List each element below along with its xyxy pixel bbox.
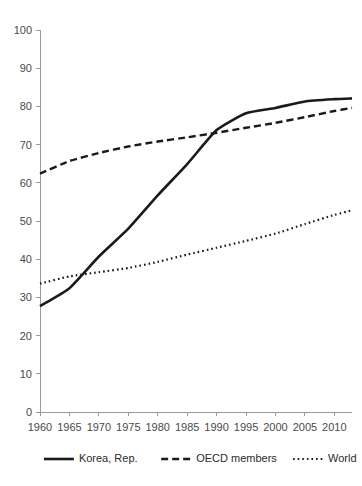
series-line-solid (40, 98, 352, 306)
x-axis-tick-label: 1970 (87, 421, 111, 433)
data-series-group (40, 98, 352, 306)
x-axis-tick-label: 2010 (322, 421, 346, 433)
x-axis-tick-label: 1960 (28, 421, 52, 433)
x-axis-tick-label: 1965 (57, 421, 81, 433)
legend-label: Korea, Rep. (79, 452, 138, 464)
x-axis-tick-group: 1960196519701975198019851990199520002005… (28, 412, 347, 433)
chart-legend: Korea, Rep.OECD membersWorld (44, 452, 357, 464)
y-axis-tick-label: 100 (14, 24, 32, 36)
y-axis-tick-label: 10 (20, 368, 32, 380)
y-axis-tick-label: 90 (20, 62, 32, 74)
legend-label: World (328, 452, 357, 464)
x-axis-tick-label: 1975 (116, 421, 140, 433)
x-axis-tick-label: 1990 (204, 421, 228, 433)
urbanization-line-chart: 0102030405060708090100 19601965197019751… (0, 0, 362, 486)
y-axis-tick-label: 50 (20, 215, 32, 227)
series-line-dotted (40, 210, 352, 283)
y-axis-tick-label: 80 (20, 100, 32, 112)
x-axis-tick-label: 1980 (145, 421, 169, 433)
x-axis-tick-label: 1985 (175, 421, 199, 433)
y-axis-tick-label: 60 (20, 177, 32, 189)
y-axis-tick-label: 30 (20, 291, 32, 303)
y-axis-tick-label: 40 (20, 253, 32, 265)
y-axis-tick-label: 20 (20, 330, 32, 342)
y-axis-tick-label: 0 (26, 406, 32, 418)
legend-label: OECD members (196, 452, 277, 464)
chart-canvas: 0102030405060708090100 19601965197019751… (0, 0, 362, 486)
x-axis-tick-label: 2000 (263, 421, 287, 433)
y-axis-tick-group: 0102030405060708090100 (14, 24, 40, 418)
series-line-dashed (40, 108, 352, 174)
y-axis-tick-label: 70 (20, 139, 32, 151)
x-axis-tick-label: 2005 (293, 421, 317, 433)
x-axis-tick-label: 1995 (234, 421, 258, 433)
